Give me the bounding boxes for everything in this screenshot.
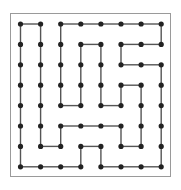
grid-dot (58, 103, 63, 108)
grid-dot (78, 103, 83, 108)
grid-dot (98, 83, 103, 88)
grid-dot (118, 83, 123, 88)
grid-dot (139, 123, 144, 128)
grid-dot (159, 62, 164, 67)
grid-dot (139, 42, 144, 47)
grid-dot (118, 62, 123, 67)
grid-dot (159, 164, 164, 169)
grid-dot (78, 144, 83, 149)
grid-dot (58, 62, 63, 67)
grid-dot (139, 83, 144, 88)
grid-dot (38, 164, 43, 169)
grid-dot (98, 103, 103, 108)
dot-grid-path-diagram (0, 0, 181, 190)
grid-dot (139, 144, 144, 149)
grid-dot (159, 21, 164, 26)
grid-dot (38, 62, 43, 67)
grid-dot (78, 123, 83, 128)
grid-dot (139, 103, 144, 108)
grid-dot (159, 144, 164, 149)
grid-dot (18, 123, 23, 128)
grid-dot (139, 164, 144, 169)
grid-dot (159, 83, 164, 88)
grid-dot (118, 123, 123, 128)
grid-dot (98, 123, 103, 128)
grid-dot (118, 103, 123, 108)
grid-dot (139, 21, 144, 26)
grid-dot (58, 144, 63, 149)
grid-dot (18, 21, 23, 26)
grid-dot (159, 42, 164, 47)
grid-dot (18, 42, 23, 47)
grid-dot (58, 42, 63, 47)
grid-dot (98, 42, 103, 47)
grid-dot (38, 21, 43, 26)
grid-dot (98, 62, 103, 67)
grid-dot (118, 42, 123, 47)
grid-dot (159, 123, 164, 128)
grid-dot (118, 144, 123, 149)
grid-dot (159, 103, 164, 108)
grid-dot (139, 62, 144, 67)
grid-dot (38, 83, 43, 88)
grid-dot (38, 42, 43, 47)
grid-dot (98, 164, 103, 169)
grid-dot (98, 21, 103, 26)
grid-dot (118, 21, 123, 26)
grid-dot (78, 83, 83, 88)
grid-dot (118, 164, 123, 169)
grid-dot (18, 103, 23, 108)
grid-dot (38, 123, 43, 128)
grid-dot (78, 21, 83, 26)
grid-dot (98, 144, 103, 149)
grid-dot (18, 83, 23, 88)
grid-dot (18, 164, 23, 169)
grid-dot (38, 144, 43, 149)
grid-dot (58, 83, 63, 88)
grid-dot (78, 164, 83, 169)
grid-dot (58, 164, 63, 169)
grid-dot (78, 42, 83, 47)
grid-dots (18, 21, 164, 169)
grid-dot (18, 144, 23, 149)
grid-dot (38, 103, 43, 108)
grid-dot (58, 123, 63, 128)
grid-dot (78, 62, 83, 67)
grid-dot (58, 21, 63, 26)
grid-dot (18, 62, 23, 67)
